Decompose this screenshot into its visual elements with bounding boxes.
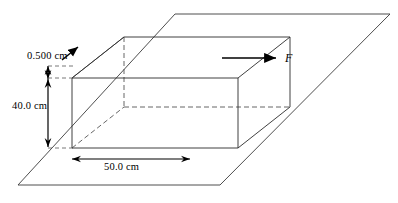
force-label: F [285,51,292,66]
block-visible-edges [72,37,290,148]
hidden-back-left-diagonal [72,107,124,148]
block-hidden-edges [72,37,290,148]
thickness-label: 0.500 cm [27,50,68,61]
block-top-left-edge [72,37,124,78]
block-front-face [72,78,238,148]
block-on-plane-diagram [0,0,398,203]
width-label: 50.0 cm [104,161,139,172]
block-bottom-right-edge [238,107,290,148]
figure-container: 0.500 cm 40.0 cm 50.0 cm F [0,0,398,203]
height-label: 40.0 cm [12,100,47,111]
